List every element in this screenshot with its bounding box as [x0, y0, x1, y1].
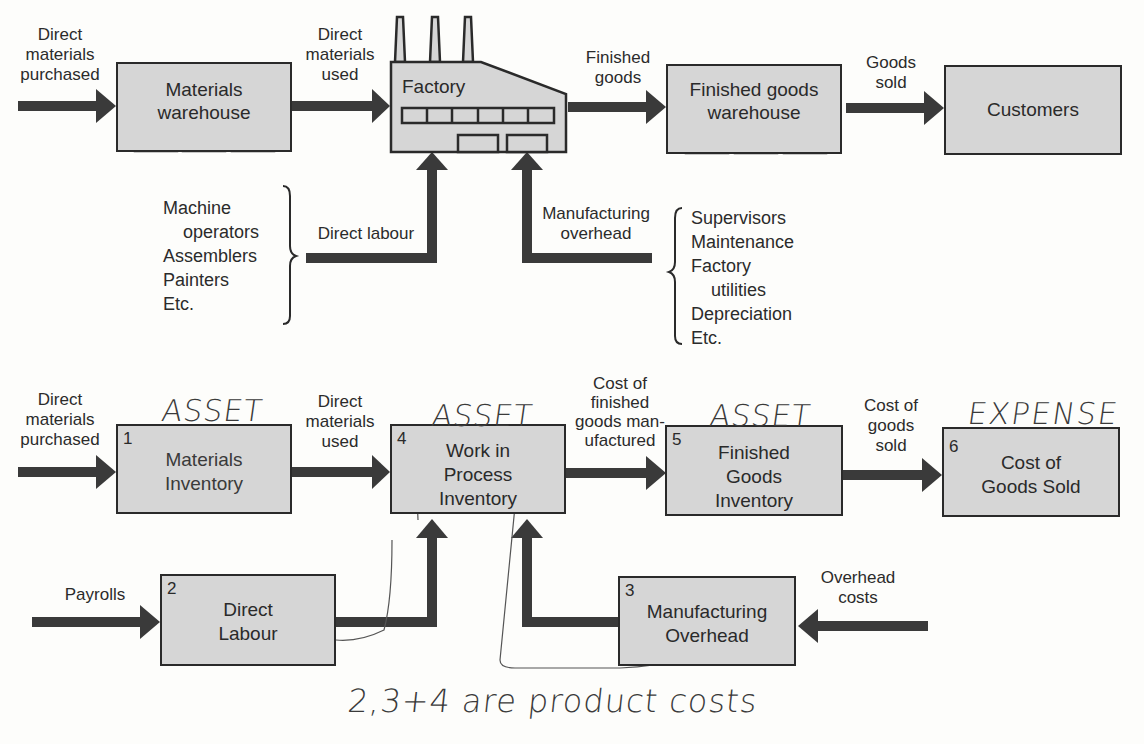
annotation-asset-5: ASSET [708, 398, 814, 433]
arrow-goods-sold [846, 91, 944, 125]
label-dm-used-bottom: Direct materials used [292, 392, 388, 452]
arrow-cost-fg-manufactured [566, 456, 666, 490]
arrow-direct-labour-to-wip [336, 519, 448, 627]
node-manufacturing-overhead: 3 Manufacturing Overhead [618, 576, 796, 666]
node-finished-goods-inventory: 5 Finished Goods Inventory [665, 425, 843, 516]
label-dm-purchased-top: Direct materials purchased [12, 25, 108, 85]
node-materials-inventory: 1 Materials Inventory [116, 424, 292, 514]
annotation-asset-4: ASSET [430, 398, 536, 433]
handwritten-note: 2,3+4 are product costs [346, 682, 759, 720]
node-direct-labour: 2 Direct Labour [160, 574, 336, 666]
arrow-payrolls [32, 605, 160, 639]
label-finished-goods: Finished goods [568, 48, 668, 88]
label-dm-used-top: Direct materials used [292, 25, 388, 85]
node-customers: Customers [944, 65, 1122, 155]
arrow-overhead-costs [798, 609, 928, 643]
arrow-direct-labour-top [306, 152, 448, 263]
node-cost-of-goods-sold: 6 Cost of Goods Sold [942, 427, 1120, 517]
annotation-asset-1: ASSET [160, 393, 266, 428]
label-payrolls: Payrolls [55, 585, 135, 605]
label-dm-purchased-bottom: Direct materials purchased [12, 390, 108, 450]
arrow-dm-purchased-top [18, 89, 116, 123]
arrow-overhead-to-wip [511, 519, 620, 627]
node-materials-warehouse: Materials warehouse [116, 62, 292, 152]
labour-list: Machine operators Assemblers Painters Et… [163, 196, 259, 316]
label-overhead-costs: Overhead costs [818, 568, 898, 608]
label-goods-sold: Goods sold [848, 53, 934, 93]
node-finished-goods-warehouse: Finished goods warehouse [666, 64, 842, 154]
overhead-list: Supervisors Maintenance Factory utilitie… [691, 206, 794, 350]
arrow-dm-purchased-bottom [18, 455, 116, 489]
label-cogs: Cost of goods sold [848, 396, 934, 456]
label-manufacturing-overhead: Manufacturing overhead [532, 204, 660, 244]
arrow-cogs [842, 458, 942, 492]
arrow-dm-used-bottom [292, 455, 390, 489]
annotation-expense-6: EXPENSE [966, 396, 1122, 431]
arrow-finished-goods [568, 90, 666, 124]
left-brace-icon [669, 208, 682, 344]
right-brace-icon [283, 186, 296, 324]
node-factory: Factory [392, 75, 492, 99]
arrow-dm-used-top [292, 89, 390, 123]
label-cost-fg-manufactured: Cost of finished goods man- ufactured [570, 374, 670, 450]
label-direct-labour: Direct labour [308, 224, 424, 244]
node-work-in-process: 4 Work in Process Inventory [390, 424, 566, 514]
